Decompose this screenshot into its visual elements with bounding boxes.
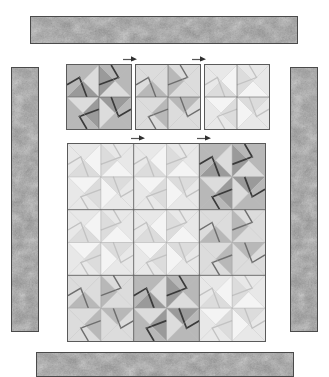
bottom-border-strip	[36, 352, 294, 377]
arrow-right-glyph	[131, 133, 145, 142]
border-fabric-texture	[12, 68, 38, 331]
quilt-block-r2c1[interactable]	[134, 275, 200, 341]
quilt-block-r2c0[interactable]	[68, 275, 134, 341]
arrow-right-glyph	[192, 54, 206, 63]
quilt-top-layout[interactable]	[67, 143, 266, 342]
quilt-block-r1c0[interactable]	[68, 210, 134, 276]
left-border-strip	[11, 67, 39, 332]
quilt-block-r1c2[interactable]	[199, 210, 265, 276]
arrow-right-icon	[197, 133, 211, 142]
arrow-right-icon	[131, 133, 145, 142]
sample-block-light[interactable]	[204, 64, 270, 130]
arrow-right-glyph	[123, 54, 137, 63]
border-fabric-texture	[31, 17, 297, 43]
quilt-grid	[68, 144, 265, 341]
arrow-right-icon	[192, 54, 206, 63]
border-fabric-texture	[37, 353, 293, 376]
sample-block-medium[interactable]	[135, 64, 201, 130]
sample-block-dark[interactable]	[66, 64, 132, 130]
quilt-block-r0c1[interactable]	[134, 144, 200, 210]
quilt-block-r2c2[interactable]	[199, 275, 265, 341]
top-border-strip	[30, 16, 298, 44]
arrow-right-icon	[123, 54, 137, 63]
pinwheel-block-light	[205, 65, 269, 129]
quilt-block-r0c0[interactable]	[68, 144, 134, 210]
pinwheel-block-dark	[67, 65, 131, 129]
arrow-right-glyph	[197, 133, 211, 142]
quilt-diagram-canvas	[0, 0, 329, 377]
quilt-block-r1c1[interactable]	[134, 210, 200, 276]
border-fabric-texture	[291, 68, 317, 331]
quilt-block-r0c2[interactable]	[199, 144, 265, 210]
right-border-strip	[290, 67, 318, 332]
pinwheel-block-medium	[136, 65, 200, 129]
